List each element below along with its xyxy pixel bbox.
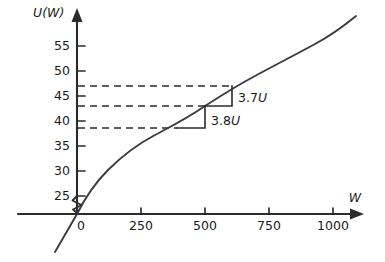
y-axis-title: U(W) (33, 5, 64, 20)
y-tick-labels-group: 55 50 45 40 35 30 25 (54, 38, 70, 203)
y-tick-label-35: 35 (54, 138, 70, 153)
arrow-right-icon (350, 209, 364, 220)
y-tick-label-25: 25 (54, 188, 70, 203)
step-label-3-7U-value: 3.7 (238, 90, 258, 105)
x-tick-label-1000: 1000 (317, 218, 349, 233)
data-curve (55, 16, 356, 252)
y-tick-label-50: 50 (54, 63, 70, 78)
x-tick-label-0: 0 (77, 218, 85, 233)
x-tick-label-750: 750 (257, 218, 281, 233)
step-label-3-8U-value: 3.8 (211, 113, 231, 128)
chart-figure: 55 50 45 40 35 30 25 0 250 500 750 1000 … (0, 0, 385, 262)
y-tick-label-40: 40 (54, 113, 70, 128)
x-tick-label-500: 500 (193, 218, 217, 233)
step-label-3-7U: 3.7U (238, 90, 267, 105)
y-tick-label-45: 45 (54, 88, 70, 103)
step-label-3-8U: 3.8U (211, 113, 240, 128)
x-tick-label-250: 250 (129, 218, 153, 233)
guide-lines-group (78, 86, 232, 128)
chart-svg: 55 50 45 40 35 30 25 0 250 500 750 1000 … (0, 0, 385, 262)
arrow-up-icon (72, 8, 83, 22)
y-tick-label-55: 55 (54, 38, 70, 53)
y-ticks-group (77, 46, 85, 196)
x-tick-labels-group: 0 250 500 750 1000 (77, 218, 349, 233)
y-tick-label-30: 30 (54, 163, 70, 178)
step-label-3-8U-unit: U (231, 113, 240, 128)
step-label-3-7U-unit: U (258, 90, 267, 105)
x-axis-title: W (349, 190, 362, 205)
